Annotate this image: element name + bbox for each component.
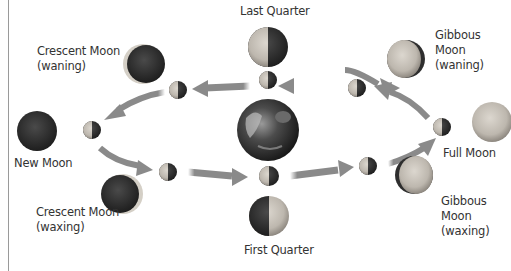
moon-last-quarter [248,27,288,67]
moon-full [472,102,511,142]
label-line: Moon [441,209,489,224]
moon-gibbous-waxing [395,156,433,194]
label-line: Gibbous [435,28,484,43]
label-crescent-waning: Crescent Moon (waning) [37,44,120,74]
label-gibbous-waxing: Gibbous Moon (waxing) [441,194,489,239]
label-line: Moon [435,43,484,58]
label-crescent-waxing: Crescent Moon (waxing) [36,205,119,235]
label-new-moon: New Moon [14,156,72,171]
label-line: Crescent Moon [37,44,120,59]
moon-first-quarter [249,196,289,236]
label-last-quarter: Last Quarter [240,4,310,19]
label-line: Gibbous [441,194,489,209]
label-first-quarter: First Quarter [244,243,314,258]
label-line: (waning) [37,59,120,74]
label-full-moon: Full Moon [443,146,496,161]
moon-new [17,111,57,151]
moon-gibbous-waning [387,40,425,78]
earth [237,99,299,161]
label-gibbous-waning: Gibbous Moon (waning) [435,28,484,73]
label-line: (waning) [435,58,484,73]
label-line: Crescent Moon [36,205,119,220]
label-line: (waxing) [36,220,119,235]
moon-crescent-waning [123,44,165,84]
label-line: (waxing) [441,224,489,239]
